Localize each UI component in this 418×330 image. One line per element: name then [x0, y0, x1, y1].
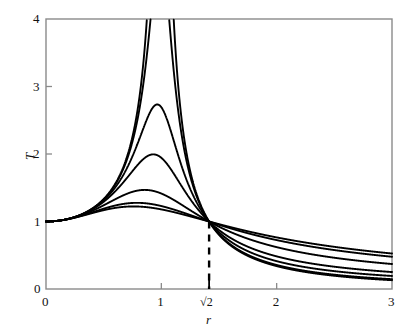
y-tick-label-3: 3	[33, 80, 40, 93]
y-axis-title: T	[22, 153, 38, 160]
figure-container: 4 3 2 1 0 0 1 √2 2 3 r T	[0, 0, 418, 330]
x-axis-title: r	[206, 312, 211, 328]
x-tick-label-0: 0	[42, 295, 49, 308]
transmissibility-plot	[0, 0, 418, 330]
x-tick-label-1: 1	[157, 295, 164, 308]
x-tick-label-2: 2	[273, 295, 280, 308]
y-tick-label-4: 4	[33, 12, 40, 25]
x-tick-label-3: 3	[388, 295, 395, 308]
x-tick-label-sqrt2: √2	[200, 295, 213, 310]
y-tick-label-0: 0	[34, 282, 41, 295]
y-tick-label-1: 1	[34, 215, 41, 228]
